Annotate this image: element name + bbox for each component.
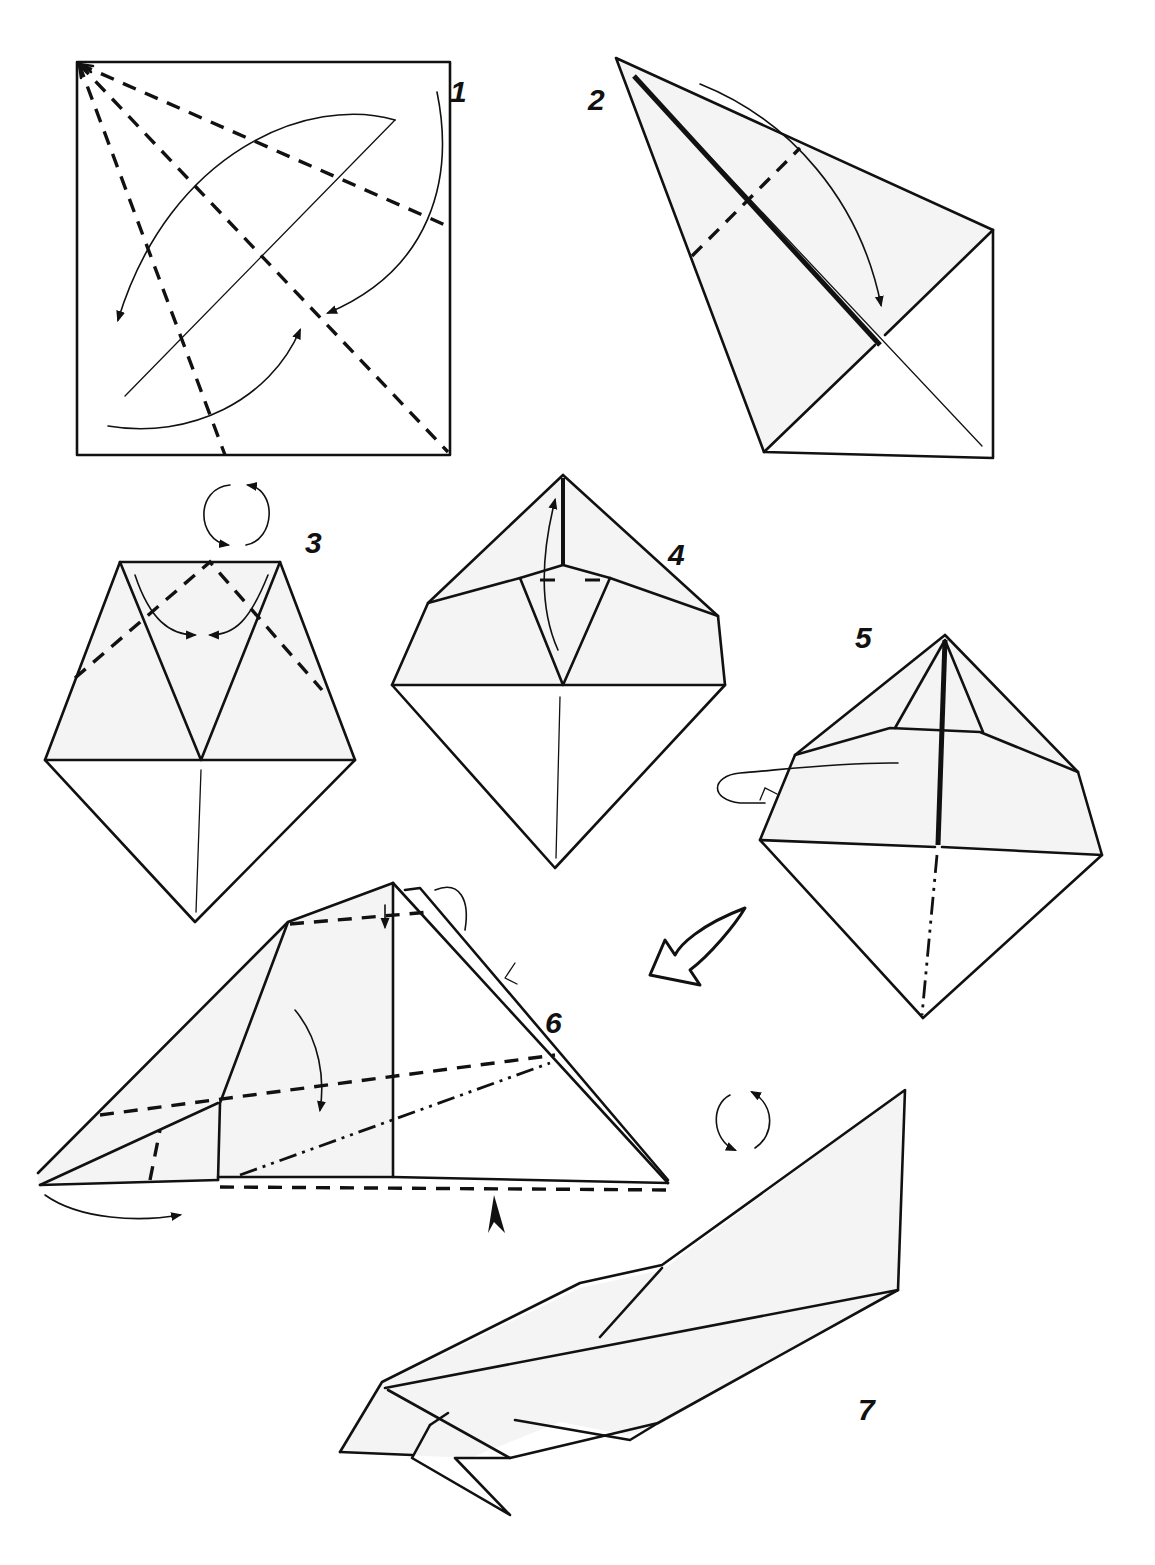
- valley-fold-bottom: [220, 1187, 672, 1190]
- step-1: 1: [77, 62, 467, 455]
- step-4: 4: [392, 475, 725, 868]
- step-number: 7: [858, 1393, 876, 1426]
- crease-line: [125, 120, 395, 396]
- origami-diagram: 1 2 3: [0, 0, 1155, 1565]
- curved-arrow-right: [328, 92, 442, 313]
- step-7: 7: [340, 1090, 905, 1515]
- step-number: 2: [587, 83, 605, 116]
- curved-arrow-left: [118, 114, 395, 320]
- step-6: 6: [38, 883, 672, 1233]
- curved-arrow-bottom: [108, 330, 300, 429]
- step-3: 3: [45, 526, 355, 922]
- valley-fold-lower: [79, 64, 225, 455]
- step-2: 2: [587, 58, 993, 458]
- hollow-arrow-icon: [650, 908, 745, 985]
- step-number: 5: [855, 621, 873, 654]
- valley-fold-upper: [79, 64, 452, 228]
- step-number: 1: [450, 75, 467, 108]
- turn-over-icon: [716, 1092, 769, 1150]
- step-number: 6: [545, 1006, 562, 1039]
- turn-over-icon: [204, 485, 269, 545]
- push-arrow-icon: [488, 1195, 505, 1233]
- step-number: 4: [667, 538, 685, 571]
- step-5: 5: [718, 621, 1103, 1018]
- step-number: 3: [305, 526, 322, 559]
